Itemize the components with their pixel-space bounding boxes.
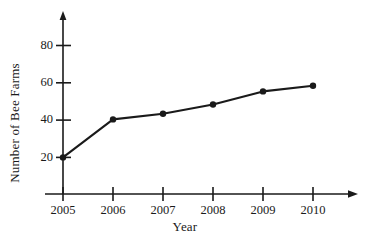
x-tick-label-2006: 2006 xyxy=(88,203,138,218)
chart-figure: 80 60 40 20 2005 2006 2007 2008 2009 201… xyxy=(0,0,370,246)
data-point xyxy=(210,101,216,107)
x-axis xyxy=(45,190,358,198)
data-point-markers xyxy=(60,83,316,161)
x-axis-title: Year xyxy=(0,219,370,235)
y-tick-label-60: 60 xyxy=(20,75,53,90)
data-point xyxy=(260,88,266,94)
y-tick-label-80: 80 xyxy=(20,38,53,53)
data-point xyxy=(160,111,166,117)
data-point xyxy=(110,116,116,122)
x-tick-label-2008: 2008 xyxy=(188,203,238,218)
x-tick-label-2007: 2007 xyxy=(138,203,188,218)
data-line-series-1 xyxy=(63,86,313,158)
data-point xyxy=(310,83,316,89)
x-tick-label-2010: 2010 xyxy=(288,203,338,218)
y-tick-label-40: 40 xyxy=(20,112,53,127)
data-point xyxy=(60,154,66,160)
x-tick-label-2009: 2009 xyxy=(238,203,288,218)
y-axis xyxy=(60,11,67,194)
x-tick-label-2005: 2005 xyxy=(38,203,88,218)
y-tick-label-20: 20 xyxy=(20,150,53,165)
